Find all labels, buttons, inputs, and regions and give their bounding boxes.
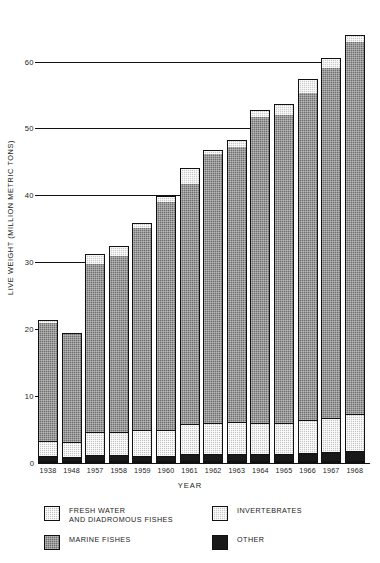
- bar-segment-1957-fresh-water-and-diadromous-fishes: [86, 433, 104, 456]
- bar-1938: [38, 320, 58, 463]
- bar-segment-1948-marine-fishes: [63, 334, 81, 443]
- bar-segment-1961-invertebrates: [181, 169, 199, 184]
- legend-item-fresh-water: FRESH WATER AND DIADROMOUS FISHES: [44, 505, 173, 524]
- legend-label-other: OTHER: [237, 534, 264, 544]
- bar-1967: [321, 58, 341, 463]
- legend-label-fresh-water: FRESH WATER AND DIADROMOUS FISHES: [69, 505, 173, 524]
- bar-1959: [132, 223, 152, 463]
- bar-segment-1958-other: [110, 456, 128, 462]
- bar-segment-1963-other: [228, 455, 246, 462]
- bar-segment-1966-invertebrates: [299, 80, 317, 93]
- plot-area: 102030405060: [38, 8, 370, 463]
- bar-segment-1966-other: [299, 454, 317, 462]
- x-axis-title: YEAR: [0, 481, 380, 490]
- bar-segment-1938-fresh-water-and-diadromous-fishes: [39, 442, 57, 457]
- y-axis-title-wrap: LIVE WEIGHT (MILLION METRIC TONS): [8, 0, 22, 455]
- bar-1962: [203, 150, 223, 463]
- bar-segment-1957-marine-fishes: [86, 264, 104, 433]
- bar-segment-1968-other: [346, 452, 364, 462]
- legend-swatch-other-icon: [212, 535, 228, 550]
- legend-item-invertebrates: INVERTEBRATES: [212, 505, 302, 521]
- bar-1960: [156, 196, 176, 463]
- bar-segment-1948-fresh-water-and-diadromous-fishes: [63, 443, 81, 458]
- bar-1968: [345, 35, 365, 463]
- bar-segment-1964-other: [251, 455, 269, 462]
- y-tick-label-0: 0: [14, 459, 34, 468]
- bar-segment-1961-fresh-water-and-diadromous-fishes: [181, 425, 199, 455]
- bar-1948: [62, 333, 82, 463]
- bar-1966: [298, 79, 318, 463]
- bar-segment-1959-marine-fishes: [133, 228, 151, 432]
- bar-segment-1964-fresh-water-and-diadromous-fishes: [251, 424, 269, 455]
- bar-segment-1959-fresh-water-and-diadromous-fishes: [133, 431, 151, 457]
- bar-segment-1948-other: [63, 458, 81, 462]
- bar-segment-1961-other: [181, 455, 199, 462]
- bar-segment-1962-other: [204, 455, 222, 462]
- bar-1963: [227, 140, 247, 463]
- bar-segment-1938-other: [39, 457, 57, 462]
- legend-label-invertebrates: INVERTEBRATES: [237, 505, 302, 515]
- bar-segment-1963-fresh-water-and-diadromous-fishes: [228, 423, 246, 455]
- bar-segment-1965-invertebrates: [275, 105, 293, 115]
- bar-1965: [274, 104, 294, 463]
- bar-segment-1964-marine-fishes: [251, 117, 269, 424]
- bar-segment-1967-marine-fishes: [322, 68, 340, 419]
- bar-segment-1967-fresh-water-and-diadromous-fishes: [322, 419, 340, 453]
- bar-segment-1960-fresh-water-and-diadromous-fishes: [157, 431, 175, 458]
- bar-segment-1968-marine-fishes: [346, 42, 364, 415]
- bar-segment-1967-other: [322, 453, 340, 462]
- bar-segment-1957-other: [86, 456, 104, 462]
- bar-segment-1958-invertebrates: [110, 247, 128, 257]
- x-axis-line: [38, 463, 370, 464]
- bar-segment-1962-marine-fishes: [204, 154, 222, 425]
- bar-1964: [250, 110, 270, 463]
- bar-segment-1959-other: [133, 457, 151, 462]
- bar-segment-1962-fresh-water-and-diadromous-fishes: [204, 424, 222, 455]
- bar-segment-1965-marine-fishes: [275, 115, 293, 424]
- bar-segment-1957-invertebrates: [86, 255, 104, 264]
- bar-segment-1958-fresh-water-and-diadromous-fishes: [110, 433, 128, 456]
- bar-segment-1958-marine-fishes: [110, 256, 128, 433]
- bar-segment-1965-fresh-water-and-diadromous-fishes: [275, 424, 293, 455]
- bar-segment-1966-fresh-water-and-diadromous-fishes: [299, 421, 317, 454]
- bar-1961: [180, 168, 200, 463]
- bar-segment-1966-marine-fishes: [299, 93, 317, 421]
- bar-segment-1963-marine-fishes: [228, 147, 246, 423]
- bar-segment-1938-marine-fishes: [39, 323, 57, 442]
- chart-legend: FRESH WATER AND DIADROMOUS FISHES MARINE…: [44, 505, 374, 557]
- bar-1957: [85, 254, 105, 463]
- bar-1958: [109, 246, 129, 463]
- bar-segment-1960-marine-fishes: [157, 202, 175, 430]
- bar-segment-1968-fresh-water-and-diadromous-fishes: [346, 415, 364, 452]
- x-tick-label-1968: 1968: [339, 466, 371, 475]
- legend-label-marine-fishes: MARINE FISHES: [69, 534, 131, 544]
- legend-swatch-invertebrates-icon: [212, 506, 228, 521]
- bar-segment-1961-marine-fishes: [181, 184, 199, 426]
- chart-figure: 102030405060 LIVE WEIGHT (MILLION METRIC…: [0, 0, 380, 563]
- bar-segment-1967-invertebrates: [322, 59, 340, 69]
- legend-swatch-marine-fishes-icon: [44, 535, 60, 550]
- legend-swatch-fresh-water-icon: [44, 506, 60, 521]
- legend-item-other: OTHER: [212, 534, 264, 550]
- bar-segment-1965-other: [275, 455, 293, 462]
- bars-layer: [38, 8, 370, 463]
- legend-item-marine-fishes: MARINE FISHES: [44, 534, 131, 550]
- y-axis-title: LIVE WEIGHT (MILLION METRIC TONS): [6, 140, 15, 295]
- bar-segment-1960-other: [157, 457, 175, 462]
